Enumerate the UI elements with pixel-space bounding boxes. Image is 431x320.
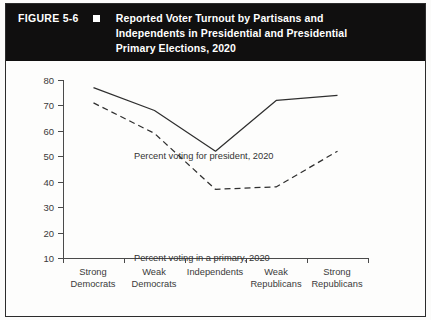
square-bullet-icon	[93, 15, 100, 22]
annotation-primary-series: Percent voting in a primary, 2020	[134, 253, 270, 263]
figure-title-line-3: Primary Elections, 2020	[116, 41, 415, 56]
figure-number: FIGURE 5-6	[18, 11, 79, 25]
series-line-president	[94, 88, 338, 152]
figure-title-line-1: Reported Voter Turnout by Partisans and	[116, 11, 415, 26]
figure-page: FIGURE 5-6 Reported Voter Turnout by Par…	[0, 0, 431, 320]
series-line-primary	[94, 103, 338, 189]
figure-header: FIGURE 5-6 Reported Voter Turnout by Par…	[6, 4, 425, 61]
chart-plot-area: 80 70 60 50 40 30 20 10	[6, 61, 425, 316]
chart-series-svg	[6, 61, 425, 316]
figure-title: Reported Voter Turnout by Partisans and …	[116, 11, 415, 56]
annotation-president-series: Percent voting for president, 2020	[134, 151, 274, 161]
figure-title-line-2: Independents in Presidential and Preside…	[116, 26, 415, 41]
